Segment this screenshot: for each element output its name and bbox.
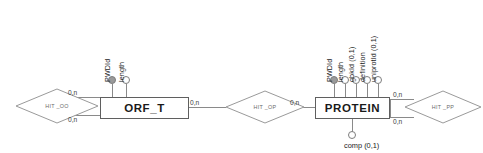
entity-protein-label: PROTEIN <box>325 102 380 114</box>
connector-orf-to-hit-op <box>189 107 226 108</box>
relationship-hit-pp[interactable]: HIT _PP <box>404 90 482 124</box>
cardinality-hit-oo-bottom: 0,n <box>68 116 77 123</box>
attribute-label-protein-length: length <box>336 62 345 82</box>
attribute-label-protein-comp: comp (0,1) <box>344 141 379 150</box>
attribute-label-orf-length: length <box>117 62 126 82</box>
entity-protein[interactable]: PROTEIN <box>315 97 390 119</box>
attribute-protein-comp[interactable] <box>348 131 356 139</box>
entity-orf-t-label: ORF_T <box>124 102 165 114</box>
relationship-hit-oo[interactable]: HIT _OO <box>15 88 99 124</box>
attribute-label-protein-pwdid: PWDId <box>325 59 334 82</box>
attribute-label-orf-pwdid: PWDId <box>103 59 112 82</box>
cardinality-hit-op-right: 0,n <box>290 99 299 106</box>
attribute-label-protein-gbkid: gbkId (0,1) <box>347 47 356 82</box>
cardinality-orf-t-right: 0,n <box>190 99 199 106</box>
entity-orf-t[interactable]: ORF_T <box>100 97 189 119</box>
cardinality-hit-oo-top: 0,n <box>68 89 77 96</box>
cardinality-hit-pp-bottom: 0,n <box>393 118 402 125</box>
connector-hit-pp-vertical <box>390 99 391 118</box>
relationship-hit-op[interactable]: HIT _OP <box>225 90 305 124</box>
attribute-label-protein-uniprotid: uniprotId (0,1) <box>369 36 378 82</box>
cardinality-hit-pp-top: 0,n <box>393 91 402 98</box>
er-diagram-canvas: HIT _OO 0,n 0,n PWDId length ORF_T 0,n H… <box>0 0 483 153</box>
attribute-label-protein-definition: definition <box>358 52 367 82</box>
